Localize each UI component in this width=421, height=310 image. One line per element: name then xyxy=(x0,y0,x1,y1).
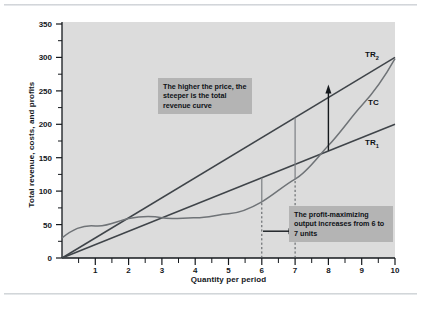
curve-label-tr2: TR2 xyxy=(365,50,379,61)
callout-price-slope: The higher the price, the steeper is the… xyxy=(158,78,252,114)
y-tick-label-350: 350 xyxy=(26,20,52,29)
chart-canvas xyxy=(0,0,421,310)
curve-label-tr2-subscript: 2 xyxy=(376,55,379,61)
curve-label-tr1-base: TR xyxy=(365,138,376,147)
curve-label-tr1-subscript: 1 xyxy=(376,143,379,149)
x-axis-title: Quantity per period xyxy=(62,275,395,284)
y-tick-label-0: 0 xyxy=(26,254,52,263)
curve-label-tc: TC xyxy=(368,98,379,107)
y-axis-title: Total revenue, costs, and profits xyxy=(27,60,36,230)
x-tick-label-5: 5 xyxy=(221,266,237,275)
callout-output-increase: The profit-maximizing output increases f… xyxy=(289,206,393,242)
x-tick-label-4: 4 xyxy=(187,266,203,275)
x-tick-label-1: 1 xyxy=(87,266,103,275)
figure-container: 0 50 100 150 200 250 300 350 1 2 3 4 5 6… xyxy=(0,0,421,310)
curve-label-tr2-base: TR xyxy=(365,50,376,59)
x-tick-label-3: 3 xyxy=(154,266,170,275)
curve-label-tr1: TR1 xyxy=(365,138,379,149)
x-tick-label-6: 6 xyxy=(254,266,270,275)
x-tick-label-10: 10 xyxy=(387,266,403,275)
x-tick-label-7: 7 xyxy=(287,266,303,275)
x-tick-label-8: 8 xyxy=(320,266,336,275)
x-tick-label-9: 9 xyxy=(354,266,370,275)
x-tick-label-2: 2 xyxy=(121,266,137,275)
